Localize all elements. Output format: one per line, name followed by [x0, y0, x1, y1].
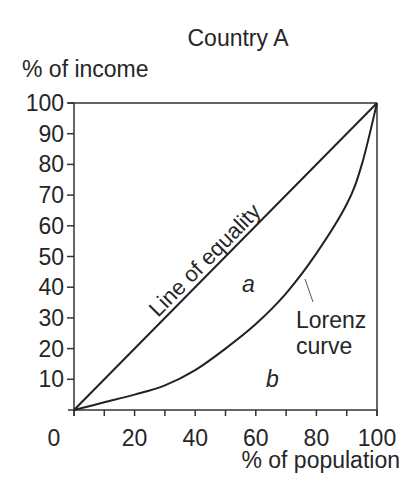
- y-tick-label: 80: [38, 151, 64, 177]
- lorenz-label-line2: curve: [296, 333, 352, 359]
- y-tick-label: 20: [38, 336, 64, 362]
- x-tick-label: 100: [358, 425, 396, 451]
- x-axis-ticks: 020406080100: [48, 410, 397, 451]
- y-tick-label: 70: [38, 182, 64, 208]
- x-tick-label: 80: [304, 425, 330, 451]
- y-tick-label: 100: [26, 90, 64, 116]
- area-b-label: b: [266, 366, 279, 392]
- y-tick-label: 40: [38, 274, 64, 300]
- area-a-label: a: [242, 271, 255, 297]
- x-tick-label: 0: [48, 425, 61, 451]
- y-tick-label: 10: [38, 366, 64, 392]
- y-tick-label: 60: [38, 213, 64, 239]
- x-tick-label: 60: [243, 425, 269, 451]
- lorenz-label-line1: Lorenz: [296, 307, 366, 333]
- lorenz-pointer: [305, 279, 313, 302]
- x-tick-label: 40: [182, 425, 208, 451]
- y-axis-label: % of income: [22, 56, 149, 82]
- y-axis-ticks: 102030405060708090100: [26, 90, 74, 392]
- y-tick-label: 30: [38, 305, 64, 331]
- chart-title: Country A: [188, 25, 290, 51]
- y-tick-label: 90: [38, 121, 64, 147]
- lorenz-chart: Country A % of income % of population 10…: [0, 0, 414, 499]
- y-tick-label: 50: [38, 244, 64, 270]
- x-tick-label: 20: [122, 425, 148, 451]
- equality-label: Line of equality: [144, 199, 266, 322]
